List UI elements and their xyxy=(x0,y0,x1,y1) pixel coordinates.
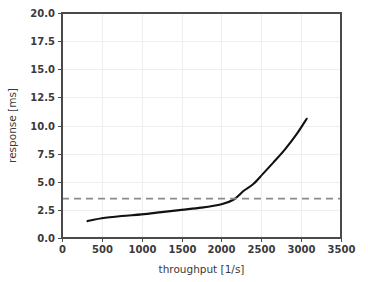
chart-canvas: 05001000150020002500300035000.02.55.07.5… xyxy=(0,0,368,282)
y-tick-label: 12.5 xyxy=(30,92,55,103)
y-tick-label: 0.0 xyxy=(37,233,55,244)
plot-background xyxy=(62,13,341,238)
x-tick-label: 3000 xyxy=(288,244,316,255)
y-tick-label: 10.0 xyxy=(30,121,55,132)
y-tick-label: 17.5 xyxy=(30,36,55,47)
x-tick-label: 0 xyxy=(59,244,66,255)
x-tick-label: 500 xyxy=(92,244,113,255)
x-tick-label: 1500 xyxy=(169,244,197,255)
y-tick-label: 7.5 xyxy=(37,149,55,160)
y-tick-label: 5.0 xyxy=(37,177,55,188)
x-tick-label: 2500 xyxy=(248,244,276,255)
chart-figure: 05001000150020002500300035000.02.55.07.5… xyxy=(0,0,368,282)
x-tick-label: 3500 xyxy=(328,244,356,255)
x-tick-label: 2000 xyxy=(208,244,236,255)
y-tick-label: 2.5 xyxy=(37,205,55,216)
x-axis-title: throughput [1/s] xyxy=(159,263,245,275)
y-tick-label: 20.0 xyxy=(30,8,55,19)
x-tick-label: 1000 xyxy=(129,244,157,255)
y-tick-label: 15.0 xyxy=(30,64,55,75)
y-axis-title: response [ms] xyxy=(6,88,18,163)
